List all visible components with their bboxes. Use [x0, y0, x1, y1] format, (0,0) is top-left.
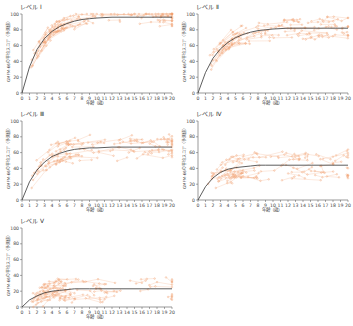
svg-text:16: 16: [139, 310, 145, 315]
svg-text:0: 0: [192, 198, 195, 203]
svg-text:17: 17: [323, 96, 329, 101]
svg-text:80: 80: [13, 27, 19, 32]
svg-text:8: 8: [81, 203, 84, 208]
svg-text:7: 7: [73, 203, 76, 208]
svg-text:13: 13: [293, 96, 299, 101]
svg-text:18: 18: [330, 203, 336, 208]
svg-text:40: 40: [189, 166, 195, 171]
svg-text:7: 7: [73, 96, 76, 101]
svg-text:1: 1: [28, 96, 31, 101]
svg-text:16: 16: [315, 203, 321, 208]
svg-text:60: 60: [189, 150, 195, 155]
svg-text:0: 0: [21, 310, 24, 315]
svg-text:14: 14: [124, 310, 130, 315]
svg-text:5: 5: [58, 310, 61, 315]
svg-text:20: 20: [345, 203, 351, 208]
svg-text:1: 1: [204, 96, 207, 101]
svg-text:17: 17: [323, 203, 329, 208]
svg-text:80: 80: [189, 134, 195, 139]
svg-text:8: 8: [81, 310, 84, 315]
svg-text:40: 40: [13, 166, 19, 171]
x-axis-label: 年齢（歳）: [86, 313, 106, 319]
svg-text:19: 19: [162, 96, 168, 101]
plot-area: 0204060801000123456789101112131415161718…: [0, 214, 176, 319]
svg-text:18: 18: [154, 203, 160, 208]
svg-text:16: 16: [315, 96, 321, 101]
svg-text:3: 3: [43, 203, 46, 208]
svg-text:16: 16: [139, 203, 145, 208]
svg-text:6: 6: [66, 203, 69, 208]
y-axis-label: GMFM-66の平均スコア（予測値）: [181, 19, 187, 82]
svg-text:7: 7: [73, 310, 76, 315]
svg-text:60: 60: [13, 43, 19, 48]
svg-text:20: 20: [189, 182, 195, 187]
svg-text:4: 4: [51, 96, 54, 101]
svg-text:3: 3: [43, 310, 46, 315]
fitted-curve: [22, 17, 172, 93]
svg-text:3: 3: [43, 96, 46, 101]
svg-text:20: 20: [13, 182, 19, 187]
svg-text:12: 12: [285, 203, 291, 208]
svg-text:19: 19: [338, 203, 344, 208]
svg-text:14: 14: [124, 203, 130, 208]
svg-text:5: 5: [58, 203, 61, 208]
svg-text:0: 0: [16, 91, 19, 96]
plot-area: 0204060801000123456789101112131415161718…: [0, 0, 176, 105]
svg-text:60: 60: [189, 43, 195, 48]
svg-text:20: 20: [169, 310, 175, 315]
svg-text:3: 3: [219, 96, 222, 101]
svg-text:20: 20: [345, 96, 351, 101]
svg-text:5: 5: [234, 96, 237, 101]
svg-text:7: 7: [249, 203, 252, 208]
y-axis-label: GMFM-66の平均スコア（予測値）: [5, 126, 11, 189]
svg-text:5: 5: [234, 203, 237, 208]
svg-text:5: 5: [58, 96, 61, 101]
svg-text:0: 0: [21, 203, 24, 208]
svg-text:3: 3: [219, 203, 222, 208]
scatter-points: [30, 13, 173, 68]
svg-text:18: 18: [154, 310, 160, 315]
svg-text:15: 15: [132, 96, 138, 101]
panel-level-1: レベル Ⅰ 0204060801000123456789101112131415…: [0, 0, 176, 105]
svg-text:0: 0: [16, 198, 19, 203]
x-axis-label: 年齢（歳）: [86, 99, 106, 105]
x-axis-label: 年齢（歳）: [86, 206, 106, 212]
svg-text:8: 8: [257, 203, 260, 208]
y-axis-label: GMFM-66の平均スコア（予測値）: [181, 126, 187, 189]
svg-text:40: 40: [189, 59, 195, 64]
svg-text:100: 100: [10, 119, 19, 124]
svg-text:100: 100: [10, 12, 19, 17]
svg-text:19: 19: [162, 203, 168, 208]
svg-text:80: 80: [189, 27, 195, 32]
svg-text:0: 0: [197, 96, 200, 101]
svg-text:19: 19: [338, 96, 344, 101]
svg-text:6: 6: [242, 203, 245, 208]
svg-text:15: 15: [308, 96, 314, 101]
svg-text:4: 4: [227, 96, 230, 101]
svg-text:15: 15: [132, 310, 138, 315]
svg-text:17: 17: [147, 310, 153, 315]
scatter-points: [209, 16, 349, 71]
plot-area: 0204060801000123456789101112131415161718…: [176, 107, 352, 212]
svg-text:80: 80: [13, 134, 19, 139]
svg-text:4: 4: [227, 203, 230, 208]
plot-area: 0204060801000123456789101112131415161718…: [176, 0, 352, 105]
scatter-points: [31, 134, 173, 189]
svg-text:8: 8: [81, 96, 84, 101]
svg-text:20: 20: [13, 289, 19, 294]
svg-text:14: 14: [124, 96, 130, 101]
svg-text:60: 60: [13, 150, 19, 155]
y-axis-label: GMFM-66の平均スコア（予測値）: [5, 233, 11, 296]
panel-level-5: レベル Ⅴ 0204060801000123456789101112131415…: [0, 214, 176, 319]
scatter-points: [31, 277, 173, 308]
panel-level-4: レベル Ⅳ 0204060801000123456789101112131415…: [176, 107, 352, 212]
svg-text:13: 13: [117, 310, 123, 315]
svg-text:17: 17: [147, 96, 153, 101]
svg-text:13: 13: [293, 203, 299, 208]
svg-text:0: 0: [16, 305, 19, 310]
svg-text:2: 2: [212, 203, 215, 208]
svg-text:6: 6: [66, 310, 69, 315]
svg-text:2: 2: [36, 203, 39, 208]
svg-text:20: 20: [189, 75, 195, 80]
svg-text:12: 12: [285, 96, 291, 101]
